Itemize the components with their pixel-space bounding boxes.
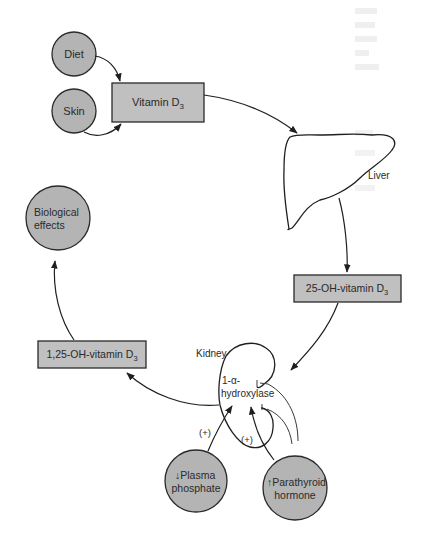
diet-label: Diet bbox=[64, 48, 84, 60]
biological-effects-line2: effects bbox=[34, 219, 65, 231]
25-oh-vitamin-d3-label: 25-OH-vitamin D bbox=[306, 282, 385, 294]
plasma-phosphate-line2: phosphate bbox=[171, 482, 220, 494]
arrow-diet-to-vitamin-d3 bbox=[95, 56, 120, 81]
liver-organ: Liver bbox=[284, 134, 395, 230]
pth-effect-label: (+) bbox=[241, 434, 253, 445]
biological-effects-line1: Biological bbox=[34, 206, 79, 218]
arrow-liver-to-25oh bbox=[339, 198, 347, 272]
arrow-vitamin-d3-to-liver bbox=[204, 95, 297, 133]
25-oh-vitamin-d3-box: 25-OH-vitamin D3 bbox=[294, 275, 401, 302]
bleed-through-text bbox=[355, 8, 379, 191]
plasma-phosphate-line1: Plasma bbox=[180, 469, 215, 481]
125-oh-vitamin-d3-subscript: 3 bbox=[133, 354, 137, 363]
hydroxylase-line1: 1-α- bbox=[222, 375, 240, 386]
arrow-phosphate-to-hydroxylase bbox=[208, 406, 232, 451]
skin-label: Skin bbox=[63, 105, 84, 117]
arrow-25oh-to-kidney bbox=[291, 303, 338, 370]
arrow-125oh-to-biological-effects bbox=[54, 261, 74, 340]
svg-text:↑Parathyroid: ↑Parathyroid bbox=[267, 476, 326, 488]
arrow-kidney-to-125oh bbox=[127, 373, 219, 405]
vitamin-d-metabolism-diagram: Diet Skin Vitamin D3 Liver 25-OH-vitamin… bbox=[0, 0, 421, 544]
plasma-phosphate-node: ↓Plasma phosphate bbox=[165, 450, 227, 512]
vitamin-d3-subscript: 3 bbox=[180, 102, 185, 111]
parathyroid-hormone-line2: hormone bbox=[274, 489, 316, 501]
phosphate-effect-label: (+) bbox=[199, 427, 211, 438]
vitamin-d3-label: Vitamin D bbox=[132, 96, 180, 108]
25-oh-vitamin-d3-subscript: 3 bbox=[384, 288, 388, 297]
skin-node: Skin bbox=[52, 89, 96, 133]
125-oh-vitamin-d3-label: 1,25-OH-vitamin D bbox=[46, 348, 133, 360]
kidney-label: Kidney bbox=[196, 348, 227, 359]
125-oh-vitamin-d3-box: 1,25-OH-vitamin D3 bbox=[38, 341, 146, 368]
parathyroid-hormone-node: ↑Parathyroid hormone bbox=[263, 456, 327, 520]
parathyroid-hormone-line1: Parathyroid bbox=[272, 476, 326, 488]
svg-text:↓Plasma: ↓Plasma bbox=[175, 469, 215, 481]
liver-label: Liver bbox=[368, 170, 390, 181]
vitamin-d3-box: Vitamin D3 bbox=[112, 83, 204, 122]
biological-effects-node: Biological effects bbox=[26, 186, 90, 250]
liver-outline bbox=[284, 134, 395, 230]
diet-node: Diet bbox=[52, 32, 96, 76]
hydroxylase-line2: hydroxylase bbox=[221, 388, 275, 399]
